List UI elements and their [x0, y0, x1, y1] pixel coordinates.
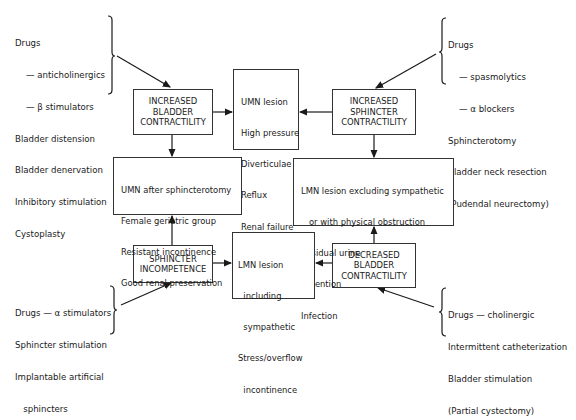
outcome-line: Resistant incontinence	[121, 247, 234, 257]
outcome-line: including	[238, 291, 309, 301]
outcome-line: UMN lesion	[241, 97, 291, 107]
cause-line: Cystoplasty	[15, 229, 107, 240]
cause-line: Drugs	[15, 38, 107, 49]
causes-increased-bladder: Drugs — anticholinergics — β stimulators…	[15, 17, 107, 250]
cause-line: Drugs — α stimulators	[15, 308, 111, 319]
outcome-right-middle: LMN lesion excluding sympathetic or with…	[293, 158, 454, 226]
outcome-line: Stress/overflow	[238, 353, 309, 363]
outcome-line: UMN after sphincterotomy	[121, 185, 234, 195]
cause-line: — α blockers	[448, 104, 549, 115]
outcome-line: Female geriatric group	[121, 216, 234, 226]
cause-line: sphincters	[15, 404, 111, 415]
state-increased-sphincter-contractility: INCREASED SPHINCTER CONTRACTILITY	[332, 89, 416, 135]
cause-line: (Partial cystectomy)	[448, 406, 567, 417]
cause-line: Drugs — cholinergic	[448, 310, 567, 321]
cause-line: Drugs	[448, 40, 549, 51]
cause-line: — anticholinergics	[15, 70, 107, 81]
outcome-line: Diverticulae	[241, 159, 291, 169]
outcome-left-middle: UMN after sphincterotomy Female geriatri…	[113, 157, 242, 215]
outcome-center-top: UMN lesion High pressure Diverticulae Re…	[233, 69, 299, 150]
state-increased-bladder-contractility: INCREASED BLADDER CONTRACTILITY	[133, 89, 213, 135]
cause-line: Bladder distension	[15, 134, 107, 145]
cause-line: Inhibitory stimulation	[15, 197, 107, 208]
cause-line: Bladder denervation	[15, 165, 107, 176]
cause-line: Sphincter stimulation	[15, 340, 111, 351]
outcome-line: Retention	[301, 279, 446, 289]
cause-line: — β stimulators	[15, 102, 107, 113]
cause-line: Intermittent catheterization	[448, 342, 567, 353]
outcome-line: or with physical obstruction	[301, 217, 446, 227]
cause-line: Bladder neck resection	[448, 167, 549, 178]
outcome-line: incontinence	[238, 385, 309, 395]
causes-increased-sphincter: Drugs — spasmolytics — α blockers Sphinc…	[448, 19, 549, 220]
causes-decreased-bladder: Drugs — cholinergic Intermittent cathete…	[448, 289, 567, 420]
cause-line: — spasmolytics	[448, 72, 549, 83]
cause-line: Bladder stimulation	[448, 374, 567, 385]
outcome-line: LMN lesion excluding sympathetic	[301, 186, 446, 196]
outcome-line: LMN lesion	[238, 260, 309, 270]
cause-line: (Pudendal neurectomy)	[448, 199, 549, 210]
brace-top-left	[108, 16, 115, 94]
outcome-line: Infection	[301, 311, 446, 321]
brace-top-right	[439, 18, 446, 84]
outcome-line: Reflux	[241, 190, 291, 200]
outcome-line: sympathetic	[238, 322, 309, 332]
outcome-line: Good renal preservation	[121, 278, 234, 288]
outcome-center-bottom: LMN lesion including sympathetic Stress/…	[232, 232, 315, 299]
causes-sphincter-incompetence: Drugs — α stimulators Sphincter stimulat…	[15, 287, 111, 420]
outcome-line: Residual urine	[301, 248, 446, 258]
outcome-line: Renal failure	[241, 222, 291, 232]
outcome-line: High pressure	[241, 128, 291, 138]
cause-line: Sphincterotomy	[448, 136, 549, 147]
cause-line: Implantable artificial	[15, 372, 111, 383]
